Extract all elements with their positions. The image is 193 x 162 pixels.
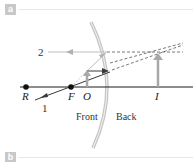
label-I: I [155,91,159,102]
ray-1-arrowhead [40,93,48,98]
image-arrow [153,53,163,87]
panel-label-b: b [5,152,16,162]
point-F [68,84,74,90]
convex-mirror [91,22,107,148]
ray-F-dashed [71,71,87,87]
virtual-rays [107,43,183,70]
label-ray-2: 2 [38,47,44,57]
label-R: R [22,91,29,102]
point-R [23,84,29,90]
label-O: O [83,91,91,102]
ray-2-arrowhead [66,49,73,55]
label-F: F [68,91,75,102]
ray-diagram [0,0,193,162]
object-arrow [83,70,91,87]
label-front: Front [76,112,98,122]
panel-divider-b [19,157,193,158]
label-ray-1: 1 [42,103,48,113]
label-back: Back [116,112,137,122]
